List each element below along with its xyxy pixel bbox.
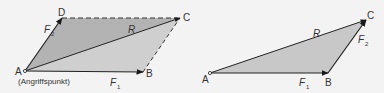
point-b-label: B — [146, 68, 153, 79]
point-a-marker-right — [208, 71, 211, 74]
force-triangle-figure: A B C R F 2 F 1 — [202, 10, 374, 90]
vector-r-label: R — [128, 24, 135, 35]
vector-r-label-right: R — [313, 28, 320, 39]
point-c-label-right: C — [367, 10, 374, 21]
point-a-label: A — [15, 66, 22, 77]
force-diagram: A B C D R F 2 F 1 (Angriffspunkt) A B C … — [0, 0, 384, 93]
point-b-label-right: B — [325, 77, 332, 88]
point-d-label: D — [58, 7, 65, 18]
vector-f1-subscript-right: 1 — [306, 84, 310, 90]
vector-f2-label-right: F — [358, 34, 365, 45]
vector-f2-label: F — [44, 24, 51, 35]
point-c-label: C — [183, 12, 190, 23]
vector-f1-label: F — [110, 77, 117, 88]
vector-f1-subscript: 1 — [117, 84, 121, 90]
vector-f2-subscript-right: 2 — [365, 41, 369, 47]
vector-f1-label-right: F — [299, 77, 306, 88]
point-a-label-right: A — [202, 74, 209, 85]
parallelogram-figure: A B C D R F 2 F 1 (Angriffspunkt) — [15, 7, 190, 90]
angriffspunkt-annotation: (Angriffspunkt) — [18, 77, 70, 86]
point-a-marker — [23, 69, 26, 72]
